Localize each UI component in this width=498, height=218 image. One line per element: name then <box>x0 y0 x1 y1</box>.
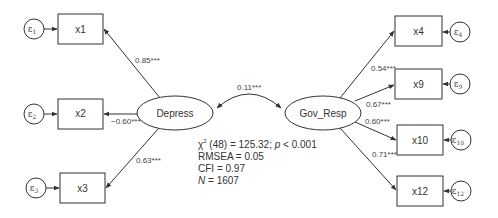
indicator-x9: x9 <box>395 69 442 99</box>
error-e2: ε2 <box>24 104 57 124</box>
indicator-label: x2 <box>75 108 86 119</box>
loading-label-x4: 0.54*** <box>371 64 396 73</box>
latent-label: Depress <box>156 108 193 119</box>
indicator-label: x10 <box>412 135 429 146</box>
indicator-label: x12 <box>412 186 429 197</box>
fit-cfi: CFI = 0.97 <box>198 163 245 174</box>
fit-chi-square: χ2 (48) = 125.32; p < 0.001 <box>198 138 317 150</box>
loading-label-x9: 0.67*** <box>366 100 391 109</box>
indicator-x4: x4 <box>395 16 442 46</box>
fit-rmsea: RMSEA = 0.05 <box>198 151 264 162</box>
covariance-label: 0.11*** <box>237 83 261 92</box>
indicator-label: x9 <box>413 79 424 90</box>
loading-label-x2: −0.60*** <box>111 117 141 126</box>
indicator-x10: x10 <box>397 125 443 155</box>
indicator-x2: x2 <box>58 99 103 129</box>
loading-arrow-x12 <box>340 128 396 190</box>
latent-label: Gov_Resp <box>299 108 347 119</box>
covariance-arrow <box>217 94 281 108</box>
indicator-x12: x12 <box>397 176 443 206</box>
loading-label-x1: 0.85*** <box>135 56 160 65</box>
loading-label-x12: 0.71*** <box>372 150 397 159</box>
fit-n: N = 1607 <box>198 175 239 186</box>
loading-arrow-x9 <box>355 85 394 101</box>
error-e9: ε9 <box>443 74 470 94</box>
sem-diagram: x1 ε1 x2 ε2 x3 ε3 0.85*** −0.60*** 0.63*… <box>0 0 498 218</box>
indicator-x3: x3 <box>60 173 105 203</box>
error-e1: ε1 <box>24 19 57 39</box>
indicator-x1: x1 <box>58 14 103 44</box>
indicator-label: x3 <box>77 183 88 194</box>
error-e3: ε3 <box>26 178 59 198</box>
indicator-label: x4 <box>413 26 424 37</box>
error-e4: ε4 <box>443 22 470 42</box>
fit-statistics: χ2 (48) = 125.32; p < 0.001 RMSEA = 0.05… <box>198 138 317 186</box>
error-e12: ε12 <box>444 181 471 201</box>
indicator-label: x1 <box>75 24 86 35</box>
latent-depress: Depress <box>137 96 213 130</box>
latent-gov-resp: Gov_Resp <box>285 96 361 130</box>
loading-label-x10: 0.60*** <box>365 117 390 126</box>
loading-label-x3: 0.63*** <box>136 156 161 165</box>
error-e10: ε10 <box>444 130 471 150</box>
